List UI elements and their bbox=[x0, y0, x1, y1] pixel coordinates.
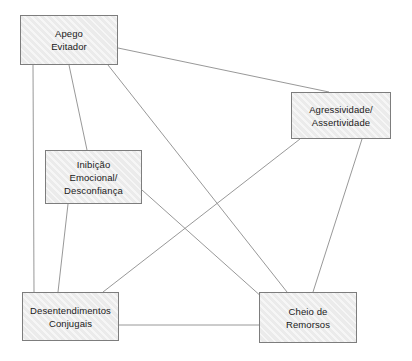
node-cheio-de-remorsos[interactable]: Cheio deRemorsos bbox=[259, 292, 357, 343]
edge-inibicao-desentendimentos bbox=[58, 204, 68, 292]
edge-inibicao-remorsos bbox=[142, 190, 263, 298]
node-apego-evitador[interactable]: ApegoEvitador bbox=[20, 15, 118, 65]
node-label-line: Cheio de bbox=[289, 305, 328, 318]
node-label-line: Agressividade/ bbox=[309, 103, 373, 116]
node-agressividade-assertividade[interactable]: Agressividade/Assertividade bbox=[291, 92, 391, 139]
edge-apego-desentendimentos bbox=[33, 65, 34, 292]
node-desentendimentos-conjugais[interactable]: DesentendimentosConjugais bbox=[22, 292, 119, 341]
node-label-line: Assertividade bbox=[312, 116, 370, 129]
node-inibicao-emocional-desconfianca[interactable]: InibiçãoEmocional/Desconfiança bbox=[45, 150, 142, 204]
node-label-line: Evitador bbox=[51, 40, 87, 53]
diagram-canvas: ApegoEvitadorAgressividade/Assertividade… bbox=[0, 0, 412, 361]
node-label-line: Conjugais bbox=[49, 317, 92, 330]
node-label-line: Remorsos bbox=[286, 318, 330, 331]
node-label-line: Desentendimentos bbox=[30, 304, 111, 317]
edge-apego-agressividade bbox=[118, 48, 329, 92]
edge-apego-inibicao bbox=[69, 65, 87, 150]
node-label-line: Apego bbox=[55, 27, 83, 40]
node-label-line: Desconfiança bbox=[64, 184, 123, 197]
edge-agressividade-remorsos bbox=[313, 139, 362, 292]
node-label-line: Emocional/ bbox=[70, 171, 118, 184]
node-label-line: Inibição bbox=[77, 158, 111, 171]
